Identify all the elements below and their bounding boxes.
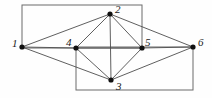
graph-canvas: [0, 0, 212, 98]
graph-node-label-1: 1: [12, 38, 18, 49]
graph-node-2: [107, 11, 112, 16]
graph-node-label-6: 6: [198, 37, 204, 48]
graph-node-label-2: 2: [115, 4, 121, 15]
graph-node-4: [73, 45, 78, 50]
graph-edge-3-5: [111, 48, 142, 80]
graph-node-5: [139, 45, 144, 50]
graph-edge-2-4: [76, 14, 110, 48]
graph-node-label-4: 4: [66, 37, 72, 48]
graph-node-6: [190, 44, 195, 49]
graph-node-label-5: 5: [145, 37, 151, 48]
lower-rectangle: [76, 47, 193, 90]
graph-node-3: [108, 77, 113, 82]
graph-edge-1-3: [22, 47, 111, 80]
graph-node-label-3: 3: [116, 81, 122, 92]
graph-figure: 123456: [0, 0, 212, 98]
graph-edge-2-6: [110, 14, 193, 47]
graph-edge-3-6: [111, 47, 193, 80]
graph-edge-2-3: [110, 14, 111, 80]
graph-edge-2-5: [110, 14, 142, 48]
graph-edge-3-4: [76, 48, 111, 80]
graph-node-1: [19, 44, 24, 49]
